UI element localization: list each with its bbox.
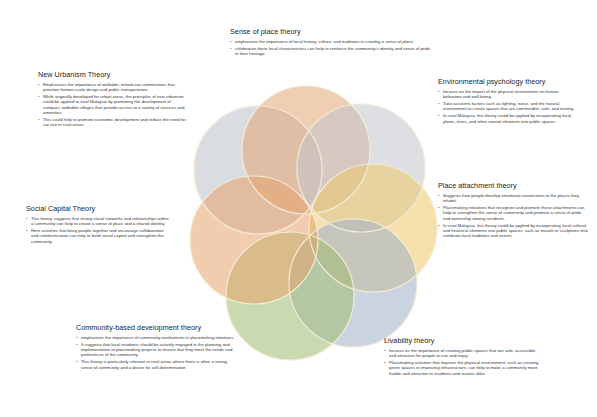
bullet: In rural Malaysia, this theory could be … bbox=[438, 223, 588, 239]
bullet: Placemaking initiatives that recognize a… bbox=[438, 205, 588, 221]
bullet: Emphasises the importance of walkable, m… bbox=[38, 82, 188, 93]
place-attachment-bullets: Suggests how people develop emotional co… bbox=[438, 193, 588, 239]
social-capital-block: Social Capital Theory This theory sugges… bbox=[26, 204, 171, 246]
social-capital-circle bbox=[190, 176, 318, 304]
bullet: Here activities that bring people togeth… bbox=[26, 228, 171, 244]
environmental-psychology-bullets: focuses on the impact of the physical en… bbox=[438, 89, 578, 124]
social-capital-title: Social Capital Theory bbox=[26, 204, 171, 213]
circle-group bbox=[190, 86, 437, 360]
new-urbanism-bullets: Emphasises the importance of walkable, m… bbox=[38, 82, 188, 128]
social-capital-bullets: This theory suggests that strong social … bbox=[26, 216, 171, 244]
bullet: It suggests that local residents should … bbox=[76, 342, 236, 358]
bullet: This theory suggests that strong social … bbox=[26, 216, 171, 227]
livability-title: Livability theory bbox=[384, 336, 544, 345]
bullet: focuses on the impact of the physical en… bbox=[438, 89, 578, 100]
community-based-block: Community-based development theory empha… bbox=[76, 323, 236, 372]
bullet: emphasizes the importance of community i… bbox=[76, 335, 236, 340]
new-urbanism-block: New Urbanism Theory Emphasises the impor… bbox=[38, 70, 188, 129]
bullet: This theory is particularly relevant in … bbox=[76, 359, 236, 370]
community-based-bullets: emphasizes the importance of community i… bbox=[76, 335, 236, 370]
bullet: emphasizes the importance of local histo… bbox=[230, 39, 430, 44]
bullet: Suggests how people develop emotional co… bbox=[438, 193, 588, 204]
bullet: celebration these local characteristics … bbox=[230, 46, 430, 57]
bullet: In rural Malaysia, this theory could be … bbox=[438, 113, 578, 124]
environmental-psychology-block: Environmental psychology theory focuses … bbox=[438, 77, 578, 126]
community-based-title: Community-based development theory bbox=[76, 323, 236, 332]
sense-of-place-bullets: emphasizes the importance of local histo… bbox=[230, 39, 430, 56]
bullet: Placemaking activities that improve the … bbox=[384, 360, 544, 376]
livability-block: Livability theory focuses on the importa… bbox=[384, 336, 544, 378]
place-attachment-block: Place attachment theory Suggests how peo… bbox=[438, 181, 588, 240]
place-attachment-title: Place attachment theory bbox=[438, 181, 588, 190]
bullet: focuses on the importance of creating pu… bbox=[384, 348, 544, 359]
sense-of-place-block: Sense of place theory emphasizes the imp… bbox=[230, 27, 430, 58]
bullet: While originally developed for urban are… bbox=[38, 94, 188, 115]
sense-of-place-title: Sense of place theory bbox=[230, 27, 430, 36]
bullet: This could help to promote economic deve… bbox=[38, 117, 188, 128]
bullet: Take accounts factors such as lighting, … bbox=[438, 101, 578, 112]
livability-bullets: focuses on the importance of creating pu… bbox=[384, 348, 544, 376]
new-urbanism-title: New Urbanism Theory bbox=[38, 70, 188, 79]
environmental-psychology-title: Environmental psychology theory bbox=[438, 77, 578, 86]
